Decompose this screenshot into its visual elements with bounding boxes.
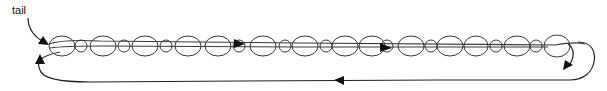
bead-small-12: [320, 40, 332, 52]
bead-large-9: [250, 36, 276, 56]
bead-small-22: [530, 40, 542, 52]
bead-large-13: [332, 36, 358, 56]
bead-large-16: [398, 36, 424, 56]
arrowhead-icon: [38, 36, 49, 45]
bead-large-11: [292, 36, 318, 56]
bead-large-18: [437, 36, 463, 56]
tail-label: tail: [12, 4, 26, 16]
bead-small-20: [490, 40, 502, 52]
bead-small-17: [425, 40, 437, 52]
bead-large-19: [464, 36, 488, 56]
wrap-around-arrow: [563, 44, 573, 70]
tail-pointer-arrow: [28, 18, 49, 45]
bead-small-10: [279, 40, 291, 52]
bead-large-23: [544, 35, 570, 57]
return-arrow: [334, 76, 344, 85]
strands: [40, 40, 585, 60]
bead-large-21: [504, 36, 530, 56]
loop-back-arrow: [35, 54, 45, 64]
linked-list-diagram: tail: [0, 0, 607, 91]
